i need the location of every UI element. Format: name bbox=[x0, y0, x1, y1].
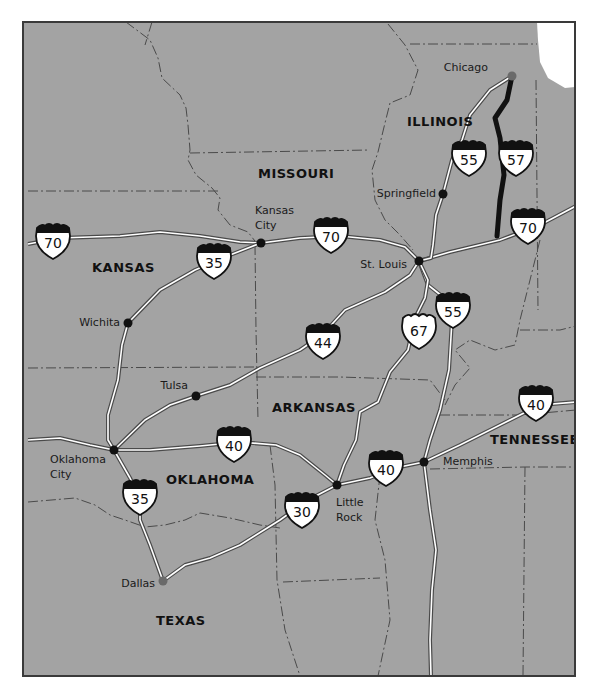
city-dot-icon bbox=[415, 257, 424, 266]
state-label-missouri: MISSOURI bbox=[258, 166, 334, 181]
city-dot-icon bbox=[124, 319, 133, 328]
state-label-tennessee: TENNESSEE bbox=[490, 432, 579, 447]
shield-number: 55 bbox=[460, 152, 478, 168]
city-label: Kansas bbox=[255, 204, 294, 217]
shield-number: 70 bbox=[519, 220, 537, 236]
shield-number: 57 bbox=[507, 152, 525, 168]
shield-number: 40 bbox=[527, 397, 545, 413]
city-dot-icon bbox=[159, 577, 168, 586]
shield-number: 40 bbox=[225, 438, 243, 454]
city-label: Little bbox=[336, 496, 364, 509]
city-dot-icon bbox=[110, 446, 119, 455]
city-label-line2: City bbox=[255, 219, 277, 232]
shield-number: 35 bbox=[205, 255, 223, 271]
shield-number: 35 bbox=[131, 491, 149, 507]
shield-number: 30 bbox=[293, 504, 311, 520]
shield-number: 70 bbox=[44, 235, 62, 251]
city-label: St. Louis bbox=[360, 258, 407, 271]
city-dot-icon bbox=[508, 72, 517, 81]
state-label-texas: TEXAS bbox=[156, 613, 206, 628]
city-dot-icon bbox=[439, 190, 448, 199]
state-label-illinois: ILLINOIS bbox=[407, 114, 473, 129]
city-dot-icon bbox=[333, 481, 342, 490]
shield-number: 55 bbox=[444, 304, 462, 320]
city-label-line2: City bbox=[50, 468, 72, 481]
city-dot-icon bbox=[420, 458, 429, 467]
city-label-line2: Rock bbox=[336, 511, 363, 524]
city-label: Tulsa bbox=[159, 379, 188, 392]
midwest-interstate-map: ChicagoSpringfieldKansasCitySt. LouisWic… bbox=[0, 0, 596, 694]
city-dot-icon bbox=[192, 392, 201, 401]
city-dot-icon bbox=[257, 239, 266, 248]
shield-number: 40 bbox=[377, 462, 395, 478]
city-label: Wichita bbox=[79, 316, 120, 329]
shield-number: 67 bbox=[410, 323, 428, 339]
city-label: Springfield bbox=[377, 187, 436, 200]
state-label-kansas: KANSAS bbox=[92, 260, 155, 275]
city-label: Oklahoma bbox=[50, 453, 106, 466]
state-label-arkansas: ARKANSAS bbox=[272, 400, 356, 415]
city-label: Dallas bbox=[121, 577, 155, 590]
city-label: Memphis bbox=[443, 455, 493, 468]
state-label-oklahoma: OKLAHOMA bbox=[166, 472, 254, 487]
city-label: Chicago bbox=[444, 61, 488, 74]
shield-number: 70 bbox=[322, 229, 340, 245]
shield-number: 44 bbox=[314, 335, 332, 351]
